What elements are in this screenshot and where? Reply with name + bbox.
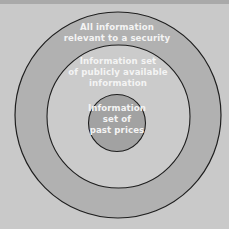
outer-label-line-1: All information <box>58 22 176 33</box>
inner-label-line-3: past prices <box>87 125 147 136</box>
inner-label-line-2: set of <box>87 114 147 125</box>
middle-label-line-1: Information set <box>58 56 178 67</box>
middle-label-line-2: of publicly available <box>58 67 178 78</box>
middle-label-line-3: information <box>58 78 178 89</box>
inner-label-line-1: Information <box>87 103 147 114</box>
middle-circle-label: Information set of publicly available in… <box>58 56 178 89</box>
outer-circle-label: All information relevant to a security <box>58 22 176 44</box>
inner-circle-label: Information set of past prices <box>87 103 147 136</box>
outer-label-line-2: relevant to a security <box>58 33 176 44</box>
